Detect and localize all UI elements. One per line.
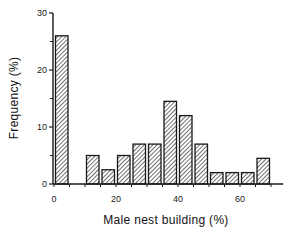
- histogram-bar: [56, 36, 69, 184]
- histogram-bar: [242, 173, 255, 184]
- bars-group: [56, 36, 270, 184]
- histogram-bar: [102, 170, 115, 184]
- histogram-bar: [133, 144, 146, 184]
- x-tick-label: 60: [235, 194, 245, 204]
- x-tick-label: 40: [173, 194, 183, 204]
- histogram-bar: [226, 173, 239, 184]
- y-tick-label: 30: [37, 8, 47, 18]
- y-tick-label: 0: [42, 179, 47, 189]
- histogram-bar: [211, 173, 224, 184]
- y-tick-label: 10: [37, 122, 47, 132]
- histogram-bar: [118, 156, 131, 185]
- y-tick-label: 20: [37, 65, 47, 75]
- histogram-bar: [87, 156, 100, 185]
- histogram-bar: [180, 116, 193, 184]
- histogram-bar: [149, 144, 162, 184]
- x-tick-label: 20: [111, 194, 121, 204]
- histogram-bar: [164, 101, 177, 184]
- histogram-bar: [195, 144, 208, 184]
- x-tick-label: 0: [51, 194, 56, 204]
- x-axis-title: Male nest building (%): [103, 213, 228, 227]
- histogram-bar: [257, 158, 270, 184]
- histogram-chart: 01020300204060 Frequency (%) Male nest b…: [0, 0, 299, 234]
- y-axis-title: Frequency (%): [7, 57, 21, 140]
